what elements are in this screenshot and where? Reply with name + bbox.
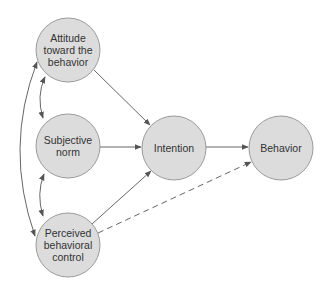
label-line: Perceived <box>36 227 100 239</box>
edge-attitude-norm <box>40 77 45 118</box>
label-line: Attitude <box>36 32 100 44</box>
label-line: toward the <box>36 44 100 56</box>
label-line: Subjective <box>36 134 100 146</box>
label-line: Behavior <box>249 142 313 154</box>
label-behavior: Behavior <box>249 142 313 154</box>
edge-norm-pbc <box>40 174 44 216</box>
label-line: behavior <box>36 56 100 68</box>
label-attitude: Attitude toward the behavior <box>36 32 100 68</box>
label-pbc: Perceived behavioral control <box>36 227 100 263</box>
label-intention: Intention <box>142 142 206 154</box>
edge-attitude-pbc <box>20 62 37 236</box>
label-subjective-norm: Subjective norm <box>36 134 100 158</box>
edge-pbc-intention <box>92 171 151 224</box>
label-line: Intention <box>142 142 206 154</box>
label-line: control <box>36 251 100 263</box>
label-line: norm <box>36 146 100 158</box>
label-line: behavioral <box>36 239 100 251</box>
edge-attitude-intention <box>94 70 150 125</box>
